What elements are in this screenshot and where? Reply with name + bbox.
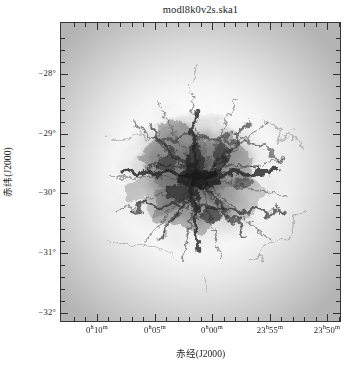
x-tick-minor-top	[132, 23, 133, 27]
x-tick-major	[327, 314, 328, 321]
y-tick-minor	[61, 169, 65, 170]
x-tick-major-top	[270, 23, 271, 30]
y-tick-minor	[61, 217, 65, 218]
y-tick-minor	[61, 158, 65, 159]
y-tick-minor	[61, 86, 65, 87]
x-tick-minor	[132, 317, 133, 321]
x-tick-minor	[224, 317, 225, 321]
x-tick-minor	[339, 317, 340, 321]
y-tick-major-right	[333, 193, 340, 194]
x-tick-minor-top	[247, 23, 248, 27]
y-tick-label: −28°	[24, 68, 56, 78]
x-tick-major	[270, 314, 271, 321]
x-axis-label: 赤经(J2000)	[60, 346, 341, 360]
x-tick-minor-top	[108, 23, 109, 27]
x-tick-minor	[143, 317, 144, 321]
y-tick-label: −30°	[24, 187, 56, 197]
y-tick-minor-right	[336, 277, 340, 278]
y-tick-minor	[61, 38, 65, 39]
y-tick-major	[61, 313, 68, 314]
y-tick-minor-right	[336, 122, 340, 123]
y-tick-minor-right	[336, 50, 340, 51]
x-tick-minor-top	[120, 23, 121, 27]
y-tick-minor	[61, 122, 65, 123]
y-tick-minor	[61, 181, 65, 182]
x-tick-minor-top	[143, 23, 144, 27]
page-title: modl8k0v2s.ska1	[60, 4, 341, 15]
y-tick-minor	[61, 265, 65, 266]
plot-axes-frame	[60, 22, 341, 322]
y-tick-minor	[61, 277, 65, 278]
y-tick-label: −29°	[24, 128, 56, 138]
y-tick-minor-right	[336, 289, 340, 290]
y-axis-label: 赤纬(J2000)	[0, 147, 14, 196]
x-tick-minor	[304, 317, 305, 321]
x-tick-minor-top	[166, 23, 167, 27]
x-tick-minor-top	[178, 23, 179, 27]
x-tick-minor	[120, 317, 121, 321]
y-tick-minor	[61, 241, 65, 242]
x-tick-minor-top	[281, 23, 282, 27]
y-tick-major-right	[333, 74, 340, 75]
y-tick-major	[61, 134, 68, 135]
x-tick-label: 0h10m	[86, 325, 108, 335]
y-tick-minor-right	[336, 229, 340, 230]
x-tick-minor-top	[258, 23, 259, 27]
y-tick-minor	[61, 62, 65, 63]
y-tick-minor-right	[336, 38, 340, 39]
x-tick-minor	[235, 317, 236, 321]
x-tick-minor	[293, 317, 294, 321]
x-tick-major-top	[155, 23, 156, 30]
y-tick-minor-right	[336, 265, 340, 266]
x-tick-major-top	[327, 23, 328, 30]
y-tick-minor-right	[336, 301, 340, 302]
y-tick-minor	[61, 146, 65, 147]
y-tick-label: −31°	[24, 247, 56, 257]
x-tick-major-top	[212, 23, 213, 30]
y-tick-minor	[61, 98, 65, 99]
y-tick-minor-right	[336, 62, 340, 63]
y-tick-minor-right	[336, 110, 340, 111]
x-tick-minor	[247, 317, 248, 321]
y-tick-minor	[61, 229, 65, 230]
y-tick-major	[61, 193, 68, 194]
y-tick-minor	[61, 110, 65, 111]
x-tick-minor	[85, 317, 86, 321]
x-tick-label: 0h05m	[144, 325, 166, 335]
y-tick-minor	[61, 205, 65, 206]
x-tick-label: 0h00m	[201, 325, 223, 335]
y-tick-minor	[61, 301, 65, 302]
y-tick-major-right	[333, 253, 340, 254]
x-tick-label: 23h55m	[257, 325, 283, 335]
x-tick-minor	[166, 317, 167, 321]
y-tick-major	[61, 74, 68, 75]
supernova-remnant-image	[61, 23, 341, 322]
y-tick-major	[61, 253, 68, 254]
x-tick-minor-top	[339, 23, 340, 27]
y-tick-minor-right	[336, 86, 340, 87]
y-tick-minor-right	[336, 205, 340, 206]
x-tick-major	[155, 314, 156, 321]
x-tick-minor	[74, 317, 75, 321]
x-tick-minor-top	[304, 23, 305, 27]
y-tick-minor-right	[336, 169, 340, 170]
x-tick-minor-top	[74, 23, 75, 27]
y-tick-minor-right	[336, 158, 340, 159]
y-tick-minor-right	[336, 146, 340, 147]
x-tick-minor	[281, 317, 282, 321]
y-tick-major-right	[333, 134, 340, 135]
y-tick-label: −32°	[24, 307, 56, 317]
y-tick-major-right	[333, 313, 340, 314]
y-tick-minor-right	[336, 181, 340, 182]
x-tick-major-top	[97, 23, 98, 30]
x-tick-minor-top	[201, 23, 202, 27]
x-tick-minor-top	[189, 23, 190, 27]
x-tick-major	[97, 314, 98, 321]
x-tick-label: 23h50m	[314, 325, 340, 335]
y-tick-minor	[61, 289, 65, 290]
x-tick-minor	[258, 317, 259, 321]
x-tick-minor-top	[85, 23, 86, 27]
y-tick-minor-right	[336, 217, 340, 218]
x-tick-minor	[108, 317, 109, 321]
x-tick-minor	[178, 317, 179, 321]
